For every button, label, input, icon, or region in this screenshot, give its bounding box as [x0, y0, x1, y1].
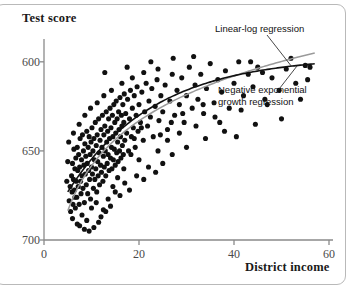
y-tick-label: 700: [12, 233, 40, 248]
annotation-negexp-line2: growth regression: [218, 96, 307, 108]
figure-container: Test score District income Linear-log re…: [0, 0, 360, 294]
annotation-negative-exponential: Negative exponential growth regression: [218, 84, 307, 107]
x-tick-label: 0: [30, 247, 58, 262]
annotation-negexp-line1: Negative exponential: [218, 84, 307, 96]
x-tick-label: 20: [125, 247, 153, 262]
annotation-linear-log: Linear-log regression: [215, 23, 304, 35]
y-axis-title: Test score: [22, 12, 76, 25]
x-tick-label: 40: [220, 247, 248, 262]
x-axis-title: District income: [245, 261, 330, 274]
data-points: [64, 54, 312, 234]
regression-curves: [68, 53, 315, 211]
y-tick-label: 600: [12, 55, 40, 70]
y-tick-label: 650: [12, 144, 40, 159]
x-tick-label: 60: [315, 247, 343, 262]
